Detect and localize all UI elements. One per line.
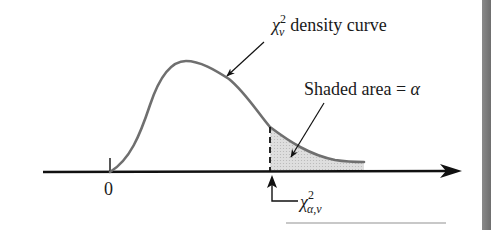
x-axis <box>43 171 452 172</box>
curve-label-arrow <box>227 42 264 76</box>
shaded-label-arrow <box>291 103 324 157</box>
density-curve <box>110 61 364 172</box>
shaded-tail-region <box>270 127 364 172</box>
diagram-canvas: χ2νdensity curve Shaded area = α 0 χ2α,ν <box>0 0 491 230</box>
zero-label: 0 <box>104 179 113 199</box>
bottom-rule <box>286 222 446 224</box>
page-edge-strip <box>482 0 491 230</box>
curve-label: χ2νdensity curve <box>270 12 387 39</box>
chi-square-diagram: χ2νdensity curve Shaded area = α 0 χ2α,ν <box>0 0 491 230</box>
critical-value-label: χ2α,ν <box>298 188 322 216</box>
shaded-area-label: Shaded area = α <box>304 79 421 99</box>
